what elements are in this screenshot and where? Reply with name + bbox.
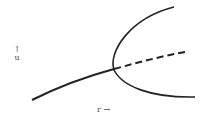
x-axis-text: r [97, 105, 101, 114]
trivial-unstable-branch [114, 52, 185, 69]
right-arrow-icon: → [103, 105, 110, 114]
y-axis-text: u [14, 53, 19, 62]
x-axis-label: r → [97, 106, 110, 114]
bifurcation-diagram [0, 0, 203, 119]
y-axis-label: ↑ u [13, 46, 21, 62]
trivial-stable-branch [32, 69, 114, 100]
lower-stable-branch [114, 70, 195, 97]
upper-stable-branch [113, 7, 174, 70]
